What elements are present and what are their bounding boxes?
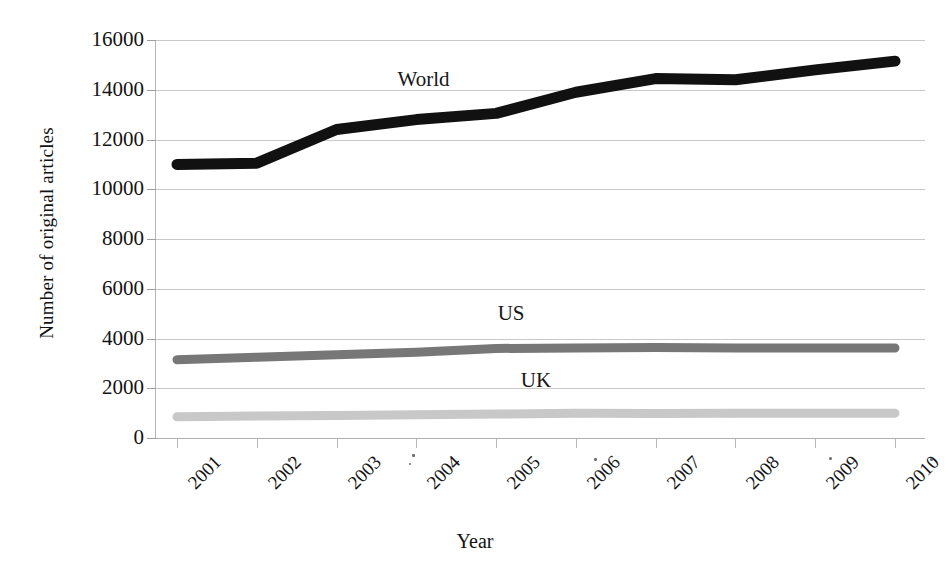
series-label-uk: UK: [521, 370, 551, 391]
y-axis-tick-label: 6000: [44, 278, 144, 299]
y-axis-tickmark: [147, 40, 156, 41]
y-axis-tickmark: [147, 438, 156, 439]
x-axis-tickmark: [416, 439, 417, 448]
y-axis-tick-label: 4000: [44, 328, 144, 349]
series-line-uk: [177, 413, 895, 417]
x-axis-tickmark: [815, 439, 816, 448]
x-axis-tick-label: 2001: [184, 452, 224, 492]
x-axis-tickmark: [496, 439, 497, 448]
scan-speckle: [409, 463, 411, 465]
y-axis-tick-label: 8000: [44, 228, 144, 249]
scan-speckle: [930, 458, 933, 461]
x-axis-tick-label: 2010: [902, 452, 942, 492]
y-axis-tick-label: 0: [44, 427, 144, 448]
series-line-world: [177, 61, 895, 164]
x-axis-tick-label: 2006: [583, 452, 623, 492]
series-label-us: US: [498, 303, 525, 324]
x-axis-tickmark: [177, 439, 178, 448]
y-axis-tick-label: 14000: [44, 79, 144, 100]
x-axis-tickmark: [895, 439, 896, 448]
x-axis-tick-label: 2007: [663, 452, 703, 492]
gridline: [155, 438, 925, 439]
x-axis-tickmark: [257, 439, 258, 448]
plot-area: WorldUSUK: [155, 40, 925, 438]
x-axis-tickmark: [576, 439, 577, 448]
line-chart: Number of original articles 020004000600…: [0, 0, 950, 580]
y-axis-tickmark: [147, 289, 156, 290]
x-axis-tick-label: 2004: [423, 452, 463, 492]
x-axis-tickmark: [656, 439, 657, 448]
x-axis-tick-label: 2002: [264, 452, 304, 492]
y-axis-tickmark: [147, 90, 156, 91]
series-line-us: [177, 347, 895, 359]
y-axis-tick-label: 2000: [44, 377, 144, 398]
x-axis-tick-label: 2003: [344, 452, 384, 492]
x-axis-tickmark: [337, 439, 338, 448]
x-axis-title: Year: [0, 530, 950, 553]
y-axis-tickmark: [147, 239, 156, 240]
x-axis-tick-label: 2008: [743, 452, 783, 492]
y-axis-tick-label: 10000: [44, 178, 144, 199]
y-axis-tick-label: 12000: [44, 129, 144, 150]
y-axis-tick-labels: 0200040006000800010000120001400016000: [36, 0, 144, 580]
y-axis-tickmark: [147, 140, 156, 141]
y-axis-tickmark: [147, 339, 156, 340]
series-label-world: World: [398, 69, 450, 90]
y-axis-tickmark: [147, 388, 156, 389]
x-axis-tickmark: [735, 439, 736, 448]
scan-speckle: [829, 457, 832, 460]
scan-speckle: [594, 458, 597, 461]
scan-speckle: [412, 454, 415, 457]
y-axis-tickmark: [147, 189, 156, 190]
y-axis-tick-label: 16000: [44, 29, 144, 50]
x-axis-tick-label: 2005: [503, 452, 543, 492]
scan-speckle: [288, 458, 291, 461]
